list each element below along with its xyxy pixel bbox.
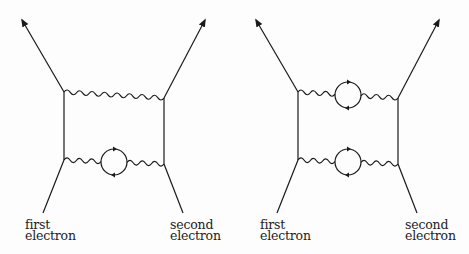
photon-line-segment — [298, 90, 335, 96]
outgoing-electron-arrow-1 — [22, 20, 64, 92]
loop-arrow-icon — [345, 173, 349, 178]
vacuum-polarization-loop — [335, 149, 361, 175]
label-first-electron-right: firstelectron — [260, 219, 311, 241]
label-second-electron-left: secondelectron — [170, 219, 221, 241]
photon-line-segment — [298, 158, 335, 164]
incoming-electron-line-1 — [43, 160, 64, 213]
label-second-electron-right: secondelectron — [405, 219, 456, 241]
loop-arrow-icon — [345, 106, 349, 111]
loop-arrow-icon — [111, 173, 115, 178]
photon-line — [64, 90, 164, 100]
outgoing-electron-arrow-2 — [398, 20, 439, 98]
diagrams-canvas — [0, 0, 469, 254]
outgoing-electron-arrow-1 — [256, 20, 298, 92]
vacuum-polarization-loop — [101, 149, 127, 175]
loop-arrow-icon — [347, 147, 351, 152]
label-first-electron-left: firstelectron — [25, 219, 76, 241]
feynman-diagrams-figure: firstelectron secondelectron firstelectr… — [0, 0, 469, 254]
loop-arrow-icon — [113, 147, 117, 152]
incoming-electron-line-1 — [277, 160, 298, 213]
diagram-left — [22, 20, 205, 213]
diagram-right — [256, 20, 439, 213]
vacuum-polarization-loop — [335, 82, 361, 108]
photon-line-segment — [361, 94, 398, 100]
outgoing-electron-arrow-2 — [164, 20, 205, 98]
loop-arrow-icon — [347, 80, 351, 85]
incoming-electron-line-2 — [398, 164, 417, 213]
photon-line-segment — [361, 160, 398, 166]
photon-line-segment — [64, 158, 101, 164]
incoming-electron-line-2 — [164, 164, 183, 213]
photon-line-segment — [127, 160, 164, 166]
